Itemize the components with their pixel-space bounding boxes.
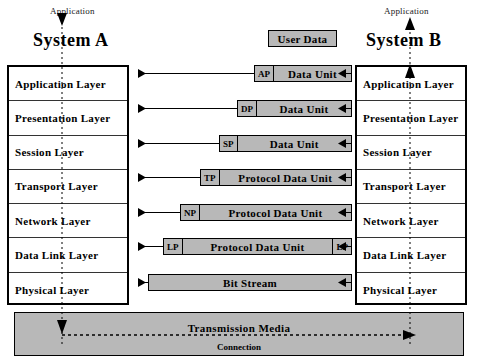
user-data-box: User Data — [268, 30, 337, 47]
transmission-media-label: Transmission Media — [15, 322, 463, 334]
layer-a-datalink[interactable]: Data Link Layer — [9, 238, 127, 272]
pdu-session-body: Data Unit — [238, 136, 351, 151]
layer-a-network[interactable]: Network Layer — [9, 204, 127, 238]
layer-b-presentation[interactable]: Presentation Layer — [357, 101, 465, 135]
transmission-media-box: Transmission Media Connection — [14, 312, 464, 356]
layer-b-network[interactable]: Network Layer — [357, 204, 465, 238]
layer-b-application[interactable]: Application Layer — [357, 67, 465, 101]
pdu-application-header: AP — [255, 66, 274, 81]
pdu-transport-header: TP — [201, 170, 220, 185]
layer-a-transport[interactable]: Transport Layer — [9, 170, 127, 204]
layer-b-datalink[interactable]: Data Link Layer — [357, 238, 465, 272]
pdu-transport: TP Protocol Data Unit — [200, 169, 352, 186]
right-application-caption: Application — [384, 6, 429, 16]
layer-a-physical[interactable]: Physical Layer — [9, 273, 127, 307]
layer-a-session[interactable]: Session Layer — [9, 136, 127, 170]
pdu-datalink-header: LP — [164, 239, 183, 254]
pdu-datalink-trailer: LP — [332, 239, 351, 254]
layer-b-session[interactable]: Session Layer — [357, 136, 465, 170]
system-b-stack: Application Layer Presentation Layer Ses… — [355, 65, 467, 305]
pdu-application: AP Data Unit — [254, 65, 352, 82]
pdu-network: NP Protocol Data Unit — [180, 204, 352, 221]
pdu-presentation-header: DP — [238, 101, 257, 116]
osi-encapsulation-diagram: Application System A Application System … — [0, 0, 478, 362]
pdu-network-header: NP — [181, 205, 200, 220]
pdu-physical-body: Bit Stream — [149, 275, 351, 290]
pdu-session: SP Data Unit — [219, 135, 352, 152]
system-b-title: System B — [366, 30, 442, 51]
system-a-title: System A — [33, 30, 109, 51]
pdu-datalink: LP Protocol Data Unit LP — [163, 238, 352, 255]
system-a-stack: Application Layer Presentation Layer Ses… — [7, 65, 129, 305]
layer-a-presentation[interactable]: Presentation Layer — [9, 101, 127, 135]
pdu-transport-body: Protocol Data Unit — [220, 170, 351, 185]
pdu-presentation-body: Data Unit — [257, 101, 351, 116]
pdu-datalink-body: Protocol Data Unit — [183, 239, 333, 254]
pdu-application-body: Data Unit — [274, 66, 351, 81]
layer-b-transport[interactable]: Transport Layer — [357, 170, 465, 204]
layer-a-application[interactable]: Application Layer — [9, 67, 127, 101]
layer-b-physical[interactable]: Physical Layer — [357, 273, 465, 307]
pdu-session-header: SP — [220, 136, 238, 151]
connection-label: Connection — [15, 342, 463, 352]
pdu-physical: Bit Stream — [148, 274, 352, 291]
pdu-presentation: DP Data Unit — [237, 100, 352, 117]
pdu-network-body: Protocol Data Unit — [200, 205, 351, 220]
left-application-caption: Application — [50, 6, 95, 16]
system-b-application-arrow — [405, 17, 415, 30]
